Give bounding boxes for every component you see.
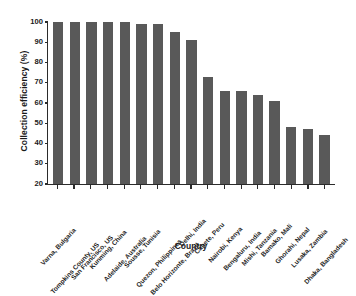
bar	[136, 24, 146, 184]
bar-slot	[150, 22, 167, 184]
y-tick-label: 50	[35, 118, 43, 128]
bar-slot	[117, 22, 134, 184]
bar	[153, 24, 163, 184]
x-tick-mark	[174, 185, 175, 189]
x-tick-mark	[107, 185, 108, 189]
bar-slot	[100, 22, 117, 184]
y-tick-label: 20	[35, 179, 43, 189]
bar	[170, 32, 180, 184]
x-tick-label: Varna, Bulgaria	[73, 190, 112, 231]
bar	[236, 91, 246, 184]
x-tick-mark	[140, 185, 141, 189]
bar-slot	[200, 22, 217, 184]
y-tick-label: 70	[35, 77, 43, 87]
bar	[269, 101, 279, 184]
bar	[253, 95, 263, 184]
y-tick-label: 30	[35, 158, 43, 168]
x-tick-mark	[73, 185, 74, 189]
bar	[86, 22, 96, 184]
plot-area: 2030405060708090100	[47, 22, 335, 185]
bar	[286, 127, 296, 184]
x-tick-mark	[90, 185, 91, 189]
bar	[319, 135, 329, 184]
y-tick-label: 40	[35, 138, 43, 148]
x-tick-mark	[307, 185, 308, 189]
x-tick-mark	[257, 185, 258, 189]
bar-slot	[266, 22, 283, 184]
bar-slot	[216, 22, 233, 184]
bar	[303, 129, 313, 184]
x-tick-mark	[291, 185, 292, 189]
y-tick-label: 80	[35, 57, 43, 67]
bar	[53, 22, 63, 184]
x-tick-mark	[57, 185, 58, 189]
y-tick-label: 100	[30, 17, 43, 27]
bar-slot	[283, 22, 300, 184]
bar-slot	[166, 22, 183, 184]
x-tick-mark	[124, 185, 125, 189]
bar-slot	[300, 22, 317, 184]
x-axis-ticks: Varna, BulgariaTompkins County, USSan Fr…	[47, 185, 335, 189]
bar	[186, 40, 196, 184]
bar-slot	[50, 22, 67, 184]
x-axis-title: Country	[47, 241, 335, 251]
y-tick-label: 60	[35, 98, 43, 108]
x-tick-mark	[207, 185, 208, 189]
bar-slot	[233, 22, 250, 184]
bar	[70, 22, 80, 184]
bar-series	[48, 22, 335, 184]
bar	[103, 22, 113, 184]
bar-slot	[83, 22, 100, 184]
bar-slot	[183, 22, 200, 184]
bar	[120, 22, 130, 184]
bar-slot	[133, 22, 150, 184]
bar-slot	[250, 22, 267, 184]
bar-slot	[67, 22, 84, 184]
bar	[203, 77, 213, 184]
bar-slot	[316, 22, 333, 184]
bar	[220, 91, 230, 184]
y-axis-title: Collection efficiency (%)	[19, 21, 29, 181]
x-tick-mark	[241, 185, 242, 189]
x-tick-mark	[224, 185, 225, 189]
x-tick-mark	[324, 185, 325, 189]
x-tick-mark	[190, 185, 191, 189]
x-tick-mark	[157, 185, 158, 189]
y-tick-label: 90	[35, 37, 43, 47]
x-tick-mark	[274, 185, 275, 189]
